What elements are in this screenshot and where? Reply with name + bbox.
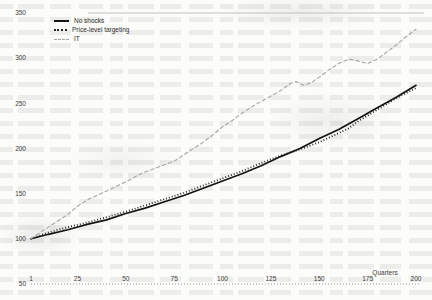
legend-label: Price-level targeting xyxy=(72,26,129,34)
scanned-page: 5010015020025030035012550751001251501752… xyxy=(0,0,432,300)
y-tick-label: 100 xyxy=(15,235,26,242)
legend-item-it: IT xyxy=(54,35,129,43)
chart-canvas: 5010015020025030035012550751001251501752… xyxy=(0,0,432,300)
y-tick-label: 300 xyxy=(15,54,26,61)
y-tick-label: 200 xyxy=(15,145,26,152)
x-tick-label: 75 xyxy=(171,275,179,282)
y-tick-label: 50 xyxy=(19,280,27,287)
line-chart: 5010015020025030035012550751001251501752… xyxy=(0,0,432,300)
y-tick-label: 350 xyxy=(15,9,26,16)
series-line-it xyxy=(31,29,416,239)
legend-item-price-level-targeting: Price-level targeting xyxy=(54,26,129,34)
legend-item-no-shocks: No shocks xyxy=(54,17,129,25)
legend-label: No shocks xyxy=(74,17,104,25)
x-tick-label: 150 xyxy=(314,275,325,282)
series-line-no-shocks xyxy=(31,85,416,239)
legend-label: IT xyxy=(74,35,80,43)
x-axis-title: Quarters xyxy=(372,269,398,277)
x-tick-label: 25 xyxy=(74,275,82,282)
x-tick-label: 1 xyxy=(29,275,33,282)
x-tick-label: 200 xyxy=(411,275,422,282)
chart-legend: No shocks Price-level targeting IT xyxy=(54,17,129,43)
series-line-price-level-targeting xyxy=(31,88,416,239)
y-tick-label: 250 xyxy=(15,100,26,107)
legend-dashed-line-sample xyxy=(54,39,69,40)
legend-dotted-line-sample xyxy=(54,29,67,31)
y-tick-label: 150 xyxy=(15,190,26,197)
x-tick-label: 50 xyxy=(122,275,130,282)
x-tick-label: 125 xyxy=(265,275,276,282)
x-tick-label: 175 xyxy=(362,275,373,282)
x-tick-label: 100 xyxy=(217,275,228,282)
legend-solid-line-sample xyxy=(54,20,69,22)
